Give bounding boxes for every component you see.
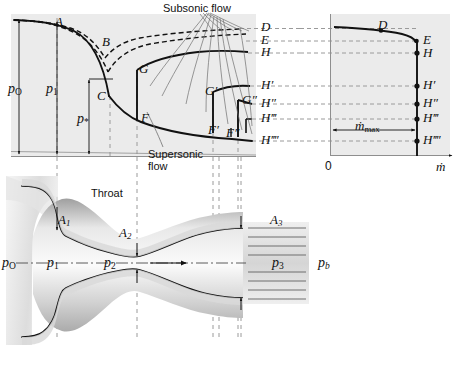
label-column-H-dprime: H″ — [261, 96, 276, 109]
label-p-1-nozzle: p1 — [47, 256, 59, 272]
label-point-F: F — [141, 111, 149, 124]
label-point-G: G — [139, 62, 148, 75]
nozzle-pressure-and-massflow-figure — [0, 0, 458, 381]
label-p-b-nozzle: pb — [318, 256, 330, 272]
label-point-A: A — [55, 15, 63, 28]
label-p-O-chart: pO — [8, 82, 22, 98]
label-massflow-H: H — [423, 46, 432, 59]
label-massflow-origin: 0 — [325, 160, 332, 172]
label-point-F-prime: F′ — [208, 123, 219, 136]
label-point-B: B — [102, 35, 110, 48]
annotation-throat: Throat — [91, 187, 123, 199]
label-p-star-chart: p* — [77, 112, 89, 128]
label-mmax: ṁmax — [355, 119, 380, 134]
label-column-H-prime: H′ — [261, 78, 273, 91]
label-point-G-prime: G′ — [205, 84, 217, 97]
label-column-H: H — [261, 45, 270, 58]
label-massflow-D: D — [378, 18, 387, 31]
annotation-subsonic-flow: Subsonic flow — [163, 2, 231, 14]
label-A-1: A1 — [58, 213, 70, 228]
label-point-F-dprime: F″ — [226, 126, 239, 139]
label-point-C: C — [97, 89, 106, 102]
label-massflow-H-qprime: H‴′ — [423, 133, 441, 146]
annotation-supersonic-flow-line1: Supersonic — [148, 148, 203, 160]
label-A-2: A2 — [119, 226, 131, 241]
label-p-1-chart: p1 — [46, 82, 58, 98]
label-column-H-qprime: H‴′ — [261, 133, 279, 146]
annotation-supersonic-flow-line2: flow — [148, 160, 168, 172]
label-massflow-H-dprime: H″ — [423, 96, 438, 109]
label-p-2-nozzle: p2 — [104, 256, 116, 272]
label-p-O-nozzle: pO — [2, 256, 16, 272]
label-column-H-tprime: H‴ — [261, 111, 276, 124]
label-point-G-dprime: G″ — [242, 93, 257, 106]
label-p-3-nozzle: p3 — [272, 256, 284, 272]
label-massflow-H-prime: H′ — [423, 78, 435, 91]
label-A-3: A3 — [270, 213, 282, 228]
label-massflow-x-axis: ṁ — [436, 160, 445, 173]
label-massflow-H-tprime: H‴ — [423, 111, 438, 124]
